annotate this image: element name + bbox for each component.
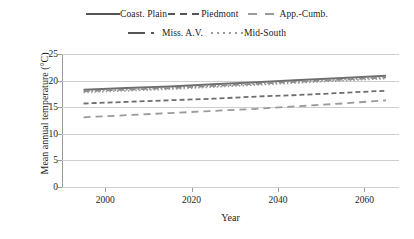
y-tick-mark-15 [58, 107, 62, 108]
series-line-coast-plain [84, 76, 386, 90]
series-lines [0, 0, 414, 239]
chart-figure: Coast. Plain Piedmont App.-Cumb. [0, 0, 414, 239]
y-tick-mark-5 [58, 160, 62, 161]
y-tick-mark-20 [58, 81, 62, 82]
series-line-piedmont [84, 91, 386, 104]
series-line-miss-a-v [84, 77, 386, 91]
y-tick-mark-10 [58, 134, 62, 135]
y-tick-mark-25 [58, 54, 62, 55]
y-tick-mark-0 [58, 187, 62, 188]
series-line-app-cumb [84, 100, 386, 117]
